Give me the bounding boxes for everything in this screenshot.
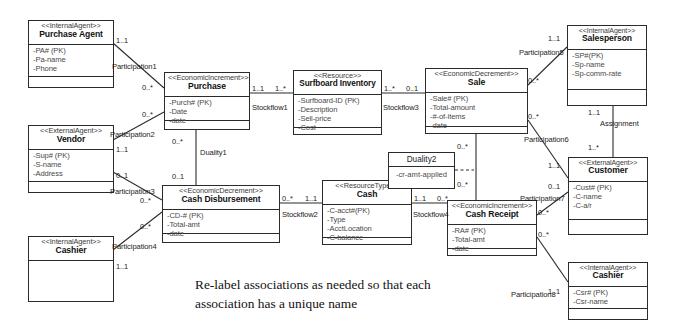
multiplicity-sale-participation5: 0..* <box>528 76 539 85</box>
class-header-vendor: <<ExternalAgent>> Vendor <box>29 126 113 150</box>
association-label-participation1: Participation1 <box>112 62 157 71</box>
class-cashier-left[interactable]: <<InternalAgent>> Cashier <box>28 236 114 302</box>
class-cash[interactable]: <<ResourceType>> Cash -C-acct#(PK) -Type… <box>322 180 412 245</box>
class-name-cashier-right: Cashier <box>572 271 644 280</box>
multiplicity-customer-assignment: 1..* <box>588 143 599 152</box>
class-name-purchase: Purchase <box>168 82 246 91</box>
class-attributes-purchase: -Purch# (PK) -Date -date <box>165 97 249 121</box>
attribute: -date <box>452 245 533 254</box>
multiplicity-cd-duality1: 0..1 <box>172 172 184 181</box>
multiplicity-purchase-agent: 1..1 <box>116 36 128 45</box>
multiplicity-cashier-left: 1..1 <box>116 262 128 271</box>
multiplicity-cr-participation8: 0..* <box>538 230 549 239</box>
association-label-stockflow2: Stockflow2 <box>282 210 318 219</box>
attribute: -date <box>430 122 524 131</box>
multiplicity-inventory-stockflow1: 1..* <box>275 84 286 93</box>
multiplicity-cd-participation4: 0..* <box>140 222 151 231</box>
multiplicity-sale-stockflow3: 0..1 <box>406 84 418 93</box>
multiplicity-purchase-stockflow1: 1..1 <box>252 84 264 93</box>
class-vendor[interactable]: <<ExternalAgent>> Vendor -Sup# (PK) -S-n… <box>28 125 114 193</box>
attribute: -Cost <box>298 124 378 133</box>
association-label-participation2: Participation2 <box>110 130 155 139</box>
class-header-cashier-right: <<InternalAgent>> Cashier <box>569 263 647 287</box>
multiplicity-sale-duality2: 0..* <box>457 142 468 151</box>
class-name-purchase-agent: Purchase Agent <box>32 30 110 39</box>
class-attributes-cashier-left <box>29 261 113 301</box>
class-header-sale: <<EconomicDecrement>> Sale <box>426 69 527 93</box>
attribute: -Address <box>33 170 110 179</box>
multiplicity-cashier-right-participation8: 1..1 <box>548 287 560 296</box>
multiplicity-inventory-stockflow3: 1..* <box>384 84 395 93</box>
class-purchase-agent[interactable]: <<InternalAgent>> Purchase Agent -PA# (P… <box>28 20 114 88</box>
association-label-participation5: Participation5 <box>519 48 564 57</box>
association-label-stockflow3: Stockflow3 <box>383 103 419 112</box>
association-label-duality1: Duality1 <box>200 148 227 157</box>
class-cash-disbursement[interactable]: <<EconomicDecrement>> Cash Disbursement … <box>162 185 280 243</box>
class-header-customer: <<ExternalAgent>> Customer <box>569 158 647 182</box>
multiplicity-cr-stockflow4: 0..* <box>437 194 448 203</box>
class-name-customer: Customer <box>572 166 644 175</box>
association-label-stockflow1: Stockflow1 <box>252 103 288 112</box>
attribute: -date <box>169 117 246 126</box>
class-customer[interactable]: <<ExternalAgent>> Customer -Cust# (PK) -… <box>568 157 648 235</box>
class-attributes-surfboard-inventory: -Surfboard-ID (PK) -Description -Sell-pr… <box>294 95 381 128</box>
association-label-participation3: Participation3 <box>110 187 155 196</box>
class-name-vendor: Vendor <box>32 135 110 144</box>
multiplicity-customer-participation6: 1..1 <box>548 161 560 170</box>
multiplicity-salesperson-participation5: 1..1 <box>548 34 560 43</box>
multiplicity-vendor-participation3: 0..1 <box>116 171 128 180</box>
class-header-cashier-left: <<InternalAgent>> Cashier <box>29 237 113 261</box>
class-header-cash-receipt: <<EconomicIncrement>> Cash Receipt <box>448 201 536 225</box>
multiplicity-purchase-duality1: 0..* <box>172 137 183 146</box>
class-header-purchase-agent: <<InternalAgent>> Purchase Agent <box>29 21 113 45</box>
association-label-assignment: Assignment <box>600 119 639 128</box>
multiplicity-customer-participation7: 0..1 <box>548 182 560 191</box>
multiplicity-cr-participation7: 0..* <box>538 208 549 217</box>
class-attributes-purchase-agent: -PA# (PK) -Pa-name -Phone <box>29 45 113 77</box>
multiplicity-purchase-participation1: 0..* <box>142 83 153 92</box>
attribute: -Phone <box>33 65 110 74</box>
multiplicity-salesperson-assignment: 1..1 <box>588 108 600 117</box>
class-cash-receipt[interactable]: <<EconomicIncrement>> Cash Receipt -RA# … <box>447 200 537 256</box>
attribute: -date <box>167 230 276 239</box>
class-header-salesperson: <<InternalAgent>> Salesperson <box>568 26 646 50</box>
class-name-cash-disbursement: Cash Disbursement <box>166 195 276 204</box>
class-sale[interactable]: <<EconomicDecrement>> Sale -Sale# (PK) -… <box>425 68 528 134</box>
class-attributes-cash: -C-acct#(PK) -Type -AcctLocation -C-bala… <box>323 205 411 238</box>
attribute: -Csr-name <box>573 298 644 307</box>
class-header-cash-disbursement: <<EconomicDecrement>> Cash Disbursement <box>163 186 279 210</box>
class-name-cash-receipt: Cash Receipt <box>451 210 533 219</box>
diagram-caption: Re-label associations as needed so that … <box>195 275 431 314</box>
class-purchase[interactable]: <<EconomicIncrement>> Purchase -Purch# (… <box>164 72 250 130</box>
association-class-duality2[interactable]: Duality2 -cr-amt-applied <box>388 152 455 189</box>
class-header-surfboard-inventory: <<Resource>> Surfboard Inventory <box>294 71 381 95</box>
class-header-purchase: <<EconomicIncrement>> Purchase <box>165 73 249 97</box>
association-class-name-duality2: Duality2 <box>389 153 454 167</box>
association-label-participation6: Participation6 <box>524 135 569 144</box>
multiplicity-cd-stockflow2: 0..* <box>282 194 293 203</box>
class-name-cashier-left: Cashier <box>32 246 110 255</box>
association-class-attribute-duality2: -cr-amt-applied <box>389 167 454 183</box>
class-name-salesperson: Salesperson <box>571 34 643 43</box>
multiplicity-sale-participation6: 0..* <box>528 112 539 121</box>
class-attributes-cash-disbursement: -CD-# (PK) -Total-amt -date <box>163 210 279 234</box>
association-label-participation7: Participation7 <box>520 194 565 203</box>
class-name-sale: Sale <box>429 78 524 87</box>
class-cashier-right[interactable]: <<InternalAgent>> Cashier -Csr# (PK) -Cs… <box>568 262 648 320</box>
multiplicity-cash-stockflow2: 1..1 <box>305 194 317 203</box>
attribute: -C-a/r <box>573 202 644 211</box>
caption-line-2: association has a unique name <box>195 294 431 313</box>
association-label-stockflow4: Stockflow4 <box>413 210 449 219</box>
class-surfboard-inventory[interactable]: <<Resource>> Surfboard Inventory -Surfbo… <box>293 70 382 135</box>
multiplicity-cr-duality2: 0..* <box>457 180 468 189</box>
multiplicity-cd-participation3: 0..* <box>140 196 151 205</box>
class-attributes-customer: -Cust# (PK) -C-name -C-a/r <box>569 182 647 220</box>
class-salesperson[interactable]: <<InternalAgent>> Salesperson -SP#(PK) -… <box>567 25 647 106</box>
multiplicity-cash-stockflow4: 1..1 <box>414 194 426 203</box>
association-label-participation4: Participation4 <box>112 242 157 251</box>
caption-line-1: Re-label associations as needed so that … <box>195 275 431 294</box>
class-name-surfboard-inventory: Surfboard Inventory <box>297 80 378 89</box>
attribute: -C-balance <box>327 234 408 243</box>
class-attributes-sale: -Sale# (PK) -Total-amount -#-of-items -d… <box>426 93 527 127</box>
class-name-cash: Cash <box>326 190 408 199</box>
